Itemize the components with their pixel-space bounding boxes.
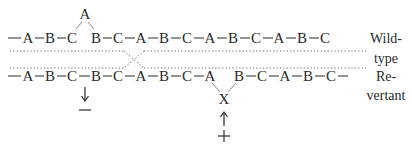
base: B	[159, 68, 169, 84]
base: C	[320, 30, 330, 46]
base: C	[113, 68, 123, 84]
base: C	[251, 30, 261, 46]
looped-out-base: A	[80, 6, 91, 22]
wildtype-label-1: Wild-	[370, 31, 402, 46]
frameshift-reversion-diagram: A B C B C A B C A B C A B C A	[0, 0, 412, 150]
base: B	[297, 30, 307, 46]
base: B	[91, 68, 101, 84]
base: B	[45, 30, 55, 46]
base: A	[23, 68, 34, 84]
revertant-bases: A B C B C A B C A B C A B C X	[23, 68, 336, 107]
base: A	[274, 30, 285, 46]
base: A	[280, 68, 291, 84]
wildtype-bases: A B C B C A B C A B C A B C A	[23, 6, 330, 46]
base: B	[228, 30, 238, 46]
deletion-marker	[79, 87, 91, 110]
base: C	[182, 68, 192, 84]
base: A	[205, 68, 216, 84]
revertant-label-1: Re-	[376, 69, 397, 84]
base: B	[91, 30, 101, 46]
base: B	[303, 68, 313, 84]
side-labels: Wild- type Re- vertant	[367, 31, 406, 103]
inserted-base: X	[219, 91, 230, 107]
base: C	[326, 68, 336, 84]
base: A	[136, 68, 147, 84]
dotted-strands	[10, 51, 366, 68]
base: A	[23, 30, 34, 46]
revertant-label-2: vertant	[367, 88, 406, 103]
base: C	[113, 30, 123, 46]
base: B	[159, 30, 169, 46]
base: B	[45, 68, 55, 84]
base: A	[205, 30, 216, 46]
base: C	[67, 30, 77, 46]
wildtype-label-2: type	[374, 51, 398, 66]
base: A	[136, 30, 147, 46]
base: B	[234, 68, 244, 84]
base: C	[67, 68, 77, 84]
revertant-strand	[8, 76, 348, 92]
base: C	[257, 68, 267, 84]
insertion-marker	[218, 112, 230, 142]
base: C	[182, 30, 192, 46]
